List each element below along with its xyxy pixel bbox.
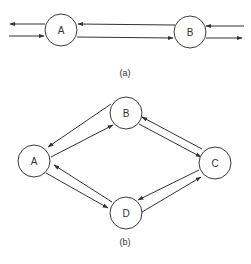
network-diagram: A B (a) A B (0, 0, 251, 264)
edge-a-to-b (77, 37, 173, 38)
edge-d-to-c (142, 177, 201, 212)
edge-a-to-d (46, 173, 108, 208)
edge-c-to-b (142, 117, 202, 149)
node-label: D (122, 208, 129, 219)
node-d-fig-b: D (110, 197, 142, 229)
caption-b: (b) (120, 237, 131, 247)
edge-d-to-a (54, 165, 112, 202)
figure-b: A B C D (b) (18, 97, 231, 247)
node-c-fig-b: C (199, 147, 231, 179)
edge-c-to-d (138, 170, 199, 200)
node-b-fig-b: B (110, 97, 142, 129)
edge-b-to-a (48, 104, 111, 147)
node-a-fig-a: A (45, 14, 77, 46)
node-label: B (123, 108, 130, 119)
edge-a-to-b (51, 125, 113, 157)
node-label: A (58, 25, 65, 36)
node-label: A (31, 156, 38, 167)
edge-b-to-a (78, 24, 175, 25)
node-b-fig-a: B (174, 16, 206, 48)
caption-a: (a) (120, 68, 131, 78)
edge-b-to-c (139, 124, 201, 157)
node-label: B (187, 27, 194, 38)
figure-a: A B (a) (9, 14, 244, 78)
node-label: C (211, 158, 218, 169)
node-a-fig-b: A (18, 145, 50, 177)
